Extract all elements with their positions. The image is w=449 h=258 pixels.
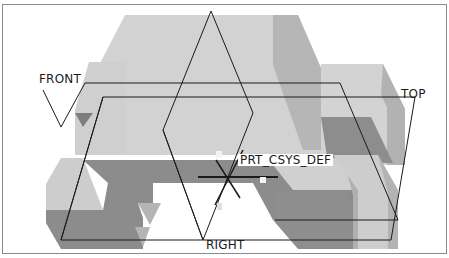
csys-y-marker	[260, 177, 266, 183]
front-leader-line	[43, 90, 61, 127]
graphics-viewport[interactable]: FRONT TOP PRT_CSYS_DEF RIGHT	[2, 4, 447, 254]
model-geometry[interactable]	[3, 5, 448, 255]
datum-label-right[interactable]: RIGHT	[206, 239, 245, 251]
csys-x-marker	[216, 151, 222, 158]
datum-label-top[interactable]: TOP	[401, 88, 426, 100]
csys-label[interactable]: PRT_CSYS_DEF	[238, 154, 333, 166]
datum-label-front[interactable]: FRONT	[39, 73, 81, 85]
csys-z-marker	[217, 203, 222, 210]
